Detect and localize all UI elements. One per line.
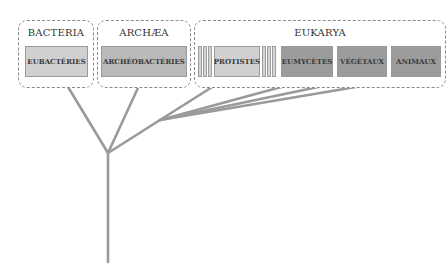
protist-bar xyxy=(203,46,207,77)
kingdom-eumycetes: EUMYCÈTES xyxy=(281,46,333,77)
protist-bar xyxy=(208,46,212,77)
kingdom-eubacteries: EUBACTÉRIES xyxy=(25,46,88,77)
kingdom-archeobacteries: ARCHÉOBACTÉRIES xyxy=(101,46,187,77)
domain-title-archaea: ARCHÆA xyxy=(98,27,190,38)
kingdom-vegetaux: VÉGÉTAUX xyxy=(337,46,387,77)
protist-bar xyxy=(262,46,266,77)
protist-bar xyxy=(198,46,202,77)
protist-bar xyxy=(272,46,276,77)
protist-bar xyxy=(267,46,271,77)
branch-bacteria xyxy=(62,77,108,153)
domain-title-bacteria: BACTERIA xyxy=(19,27,93,38)
domain-title-eukarya: EUKARYA xyxy=(195,27,445,38)
kingdom-protistes: PROTISTES xyxy=(214,46,260,77)
kingdom-animaux: ANIMAUX xyxy=(391,46,441,77)
